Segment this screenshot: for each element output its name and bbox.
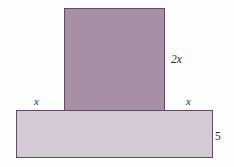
vertical-rectangle-shape [64,8,165,111]
dimension-label-left-x: x [34,96,39,107]
dimension-label-height-2x: 2x [171,54,182,66]
dimension-label-depth-5: 5 [215,131,221,143]
geometry-figure-canvas: 2x x x 5 [0,0,234,167]
dimension-label-right-x: x [186,96,191,107]
horizontal-base-rectangle-shape [16,110,213,158]
